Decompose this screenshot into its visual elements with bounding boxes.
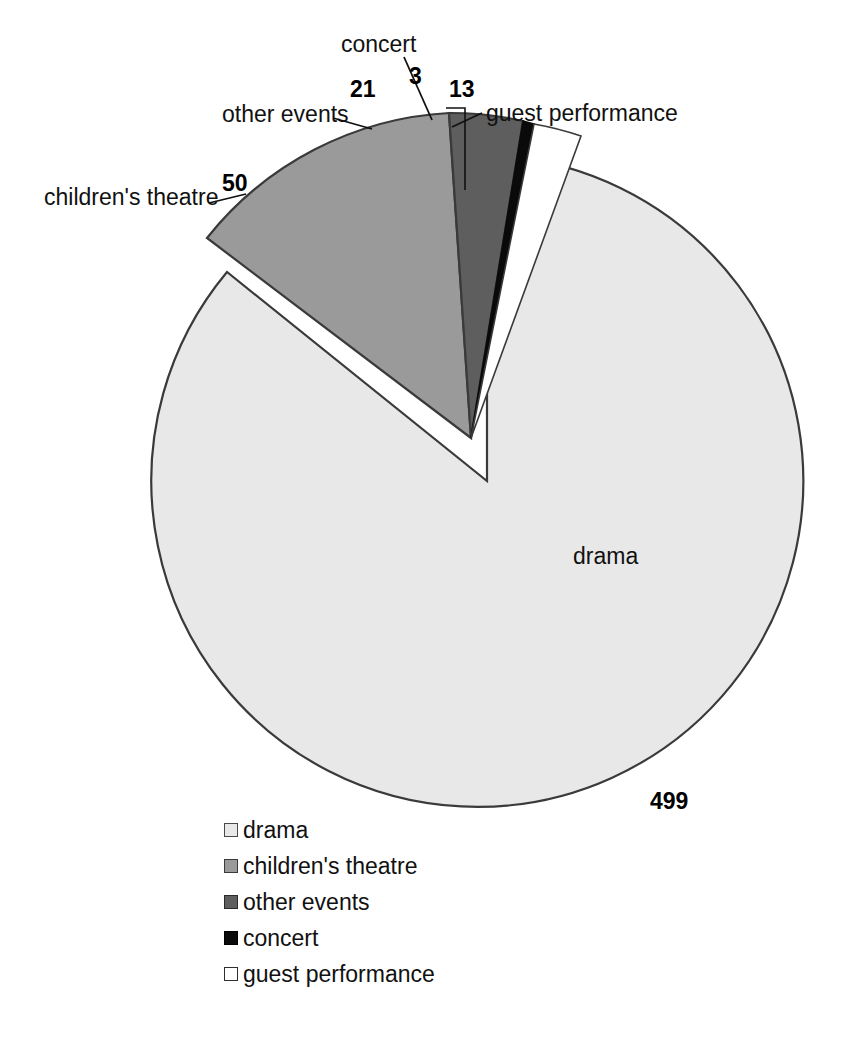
legend-label-children-theatre: children's theatre bbox=[243, 855, 417, 878]
legend-label-drama: drama bbox=[243, 819, 308, 842]
slice-label-guest-performance: guest performance bbox=[486, 102, 678, 125]
slice-value-other-events: 21 bbox=[350, 78, 376, 101]
legend-swatch-drama bbox=[224, 823, 238, 837]
legend-label-other-events: other events bbox=[243, 891, 370, 914]
legend-swatch-children-theatre bbox=[224, 859, 238, 873]
slice-label-other-events: other events bbox=[222, 103, 349, 126]
chart-legend: drama children's theatre other events co… bbox=[224, 812, 435, 992]
slice-label-children-theatre: children's theatre bbox=[44, 186, 218, 209]
slice-value-drama: 499 bbox=[650, 790, 688, 813]
legend-swatch-other-events bbox=[224, 895, 238, 909]
legend-item-guest-performance[interactable]: guest performance bbox=[224, 956, 435, 992]
legend-item-drama[interactable]: drama bbox=[224, 812, 435, 848]
legend-label-concert: concert bbox=[243, 927, 318, 950]
legend-swatch-guest-performance bbox=[224, 967, 238, 981]
chart-canvas: concert other events children's theatre … bbox=[0, 0, 853, 1038]
legend-item-other-events[interactable]: other events bbox=[224, 884, 435, 920]
slice-value-children-theatre: 50 bbox=[222, 172, 248, 195]
slice-value-guest-performance: 13 bbox=[449, 78, 475, 101]
legend-item-concert[interactable]: concert bbox=[224, 920, 435, 956]
legend-label-guest-performance: guest performance bbox=[243, 963, 435, 986]
legend-item-children-theatre[interactable]: children's theatre bbox=[224, 848, 435, 884]
legend-swatch-concert bbox=[224, 931, 238, 945]
slice-value-concert: 3 bbox=[409, 65, 422, 88]
slice-label-drama: drama bbox=[573, 545, 638, 568]
slice-label-concert: concert bbox=[341, 33, 416, 56]
